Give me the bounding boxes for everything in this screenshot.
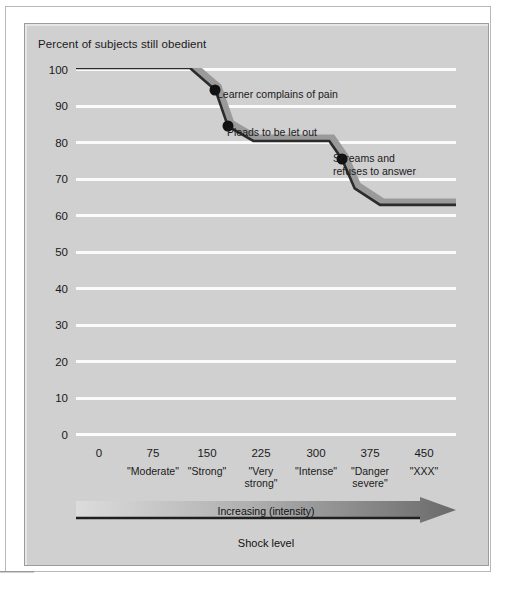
x-word-danger: "Danger severe": [351, 465, 389, 489]
chart-title: Percent of subjects still obedient: [38, 38, 206, 50]
figure-root: Percent of subjects still obedient 100 9…: [0, 0, 513, 590]
y-tick-30: 30: [34, 319, 68, 331]
y-tick-10: 10: [34, 392, 68, 404]
intensity-arrow: [76, 497, 456, 527]
y-axis-labels: 100 90 80 70 60 50 40 30 20 10 0: [34, 68, 68, 443]
y-tick-90: 90: [34, 100, 68, 112]
annotation-screams-line2: refuses to answer: [333, 165, 416, 178]
series-line-svg: [76, 68, 456, 443]
x-tick-150: 150: [197, 447, 216, 459]
x-word-intense: "Intense": [295, 465, 337, 477]
y-tick-40: 40: [34, 283, 68, 295]
x-tick-0: 0: [96, 447, 102, 459]
x-axis-labels: 0 75 150 225 300 375 450 "Moderate" "Str…: [76, 443, 456, 503]
x-word-moderate: "Moderate": [127, 465, 179, 477]
y-tick-100: 100: [34, 64, 68, 76]
y-tick-0: 0: [34, 429, 68, 441]
intensity-arrow-svg: [76, 497, 456, 527]
y-tick-20: 20: [34, 356, 68, 368]
x-word-xxx: "XXX": [410, 465, 438, 477]
x-word-strong: "Strong": [188, 465, 226, 477]
annotation-learner-complains: Learner complains of pain: [217, 88, 338, 101]
x-tick-225: 225: [251, 447, 270, 459]
x-tick-450: 450: [414, 447, 433, 459]
x-word-very-strong: "Very strong": [245, 465, 278, 489]
x-tick-375: 375: [360, 447, 379, 459]
y-tick-50: 50: [34, 246, 68, 258]
shock-level-label: Shock level: [76, 537, 456, 549]
y-tick-80: 80: [34, 137, 68, 149]
x-tick-300: 300: [306, 447, 325, 459]
annotation-screams-line1: Screams and: [333, 152, 395, 165]
data-line-layer: [76, 68, 456, 443]
annotation-pleads: Pleads to be let out: [227, 126, 317, 139]
y-tick-70: 70: [34, 173, 68, 185]
margin-rule-shadow: [0, 572, 34, 573]
x-tick-75: 75: [147, 447, 160, 459]
y-tick-60: 60: [34, 210, 68, 222]
